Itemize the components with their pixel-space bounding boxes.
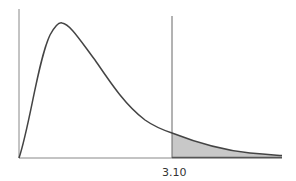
density-chart: 3.10 <box>0 0 296 181</box>
density-curve <box>19 23 282 158</box>
critical-value-label: 3.10 <box>162 166 187 179</box>
